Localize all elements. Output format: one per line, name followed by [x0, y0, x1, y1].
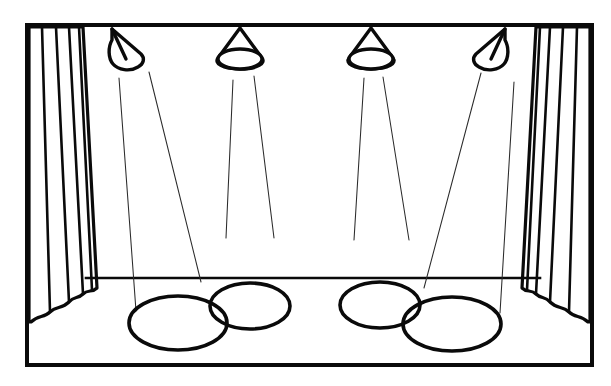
spotlight-3-rim: [349, 49, 393, 69]
stage-drawing-canvas: [0, 0, 611, 386]
stage-illustration: Theater Stage with Spotlights Black and …: [0, 0, 611, 386]
spotlight-2-rim: [218, 49, 262, 69]
